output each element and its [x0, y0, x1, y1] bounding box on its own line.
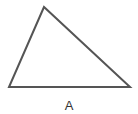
triangle-diagram [0, 0, 138, 114]
triangle-shape [9, 7, 130, 87]
triangle-label: A [0, 98, 138, 114]
